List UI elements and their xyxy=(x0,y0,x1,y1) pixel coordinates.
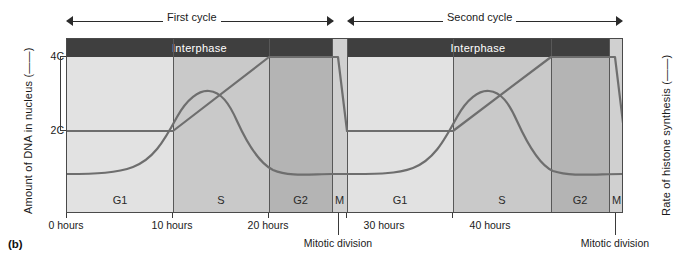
x-tick-mark-40 xyxy=(452,213,453,218)
x-tick-mark-0 xyxy=(66,213,67,218)
phase-label-s-cycle2: S xyxy=(453,194,551,206)
first-cycle-arrow-right xyxy=(327,16,334,26)
dna-content-curve xyxy=(67,57,623,131)
histone-synthesis-curve xyxy=(67,91,623,175)
phase-label-g1-cycle2: G1 xyxy=(347,194,453,206)
mitotic-division-label-1: Mitotic division xyxy=(304,237,372,249)
phase-label-g2-cycle2: G2 xyxy=(551,194,609,206)
y-axis-segment xyxy=(60,56,61,131)
panel-label: (b) xyxy=(8,238,23,250)
second-cycle-label: Second cycle xyxy=(443,11,516,23)
second-cycle-arrow-right xyxy=(616,16,623,26)
phase-label-m-cycle2: M xyxy=(609,194,623,206)
phase-label-s-cycle1: S xyxy=(173,194,269,206)
x-tick-label-30: 30 hours xyxy=(364,219,405,231)
x-tick-label-10: 10 hours xyxy=(152,219,193,231)
mitotic-division-leader-1 xyxy=(338,213,339,235)
phase-label-m-cycle1: M xyxy=(332,194,347,206)
phase-label-g2-cycle1: G2 xyxy=(269,194,332,206)
x-tick-mark-10 xyxy=(172,213,173,218)
y-axis-right-label: Rate of histone synthesis (——) xyxy=(660,55,672,216)
phase-label-g1-cycle1: G1 xyxy=(67,194,173,206)
x-tick-label-40: 40 hours xyxy=(470,219,511,231)
y-axis-left-label: Amount of DNA in nucleus (——) xyxy=(22,47,34,214)
figure-panel: First cycle Second cycle Amount of DNA i… xyxy=(0,0,684,259)
x-tick-mark-30 xyxy=(346,213,347,218)
mitotic-division-label-2: Mitotic division xyxy=(581,237,649,249)
plot-area: Interphase Interphase G1 S G2 M G1 S G2 … xyxy=(66,38,623,213)
first-cycle-label: First cycle xyxy=(163,11,221,23)
mitotic-division-leader-2 xyxy=(615,213,616,235)
x-tick-label-20: 20 hours xyxy=(248,219,289,231)
curves-layer xyxy=(67,39,623,213)
x-tick-label-0: 0 hours xyxy=(48,219,83,231)
x-tick-mark-20 xyxy=(268,213,269,218)
